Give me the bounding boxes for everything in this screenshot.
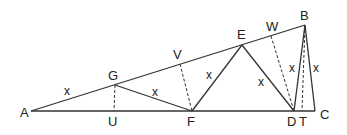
point-label-V: V xyxy=(173,47,182,62)
length-label-x: x xyxy=(313,61,319,75)
point-label-D: D xyxy=(287,114,296,129)
segment-AB xyxy=(31,25,305,111)
length-label-x: x xyxy=(64,84,70,98)
geometry-diagram: AUFDTCGVEWB xxxxxx xyxy=(0,0,347,135)
dashed-segment-GU xyxy=(114,85,115,111)
segment-DB xyxy=(294,25,305,111)
segment-ED xyxy=(242,45,294,111)
length-label-x: x xyxy=(206,68,212,82)
dashed-segment-VF xyxy=(180,64,192,111)
point-label-T: T xyxy=(299,114,307,129)
point-label-C: C xyxy=(320,107,329,122)
point-label-F: F xyxy=(187,114,195,129)
length-label-x: x xyxy=(289,61,295,75)
length-label-x: x xyxy=(258,75,264,89)
point-label-E: E xyxy=(237,27,246,42)
point-label-U: U xyxy=(108,114,117,129)
length-label-x: x xyxy=(152,85,158,99)
point-label-W: W xyxy=(266,19,279,34)
point-label-G: G xyxy=(108,68,118,83)
diagram-canvas: AUFDTCGVEWB xxxxxx xyxy=(0,0,347,135)
point-label-A: A xyxy=(20,105,29,120)
segment-FE xyxy=(192,45,242,111)
point-label-B: B xyxy=(300,8,309,23)
solid-segments xyxy=(31,25,315,111)
